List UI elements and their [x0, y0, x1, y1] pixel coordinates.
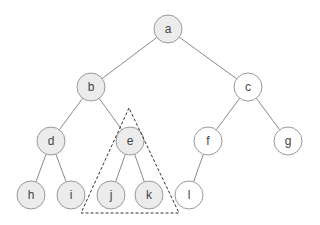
- node-label: a: [165, 22, 172, 36]
- edge-e-k: [135, 154, 145, 182]
- node-label: g: [285, 134, 292, 148]
- tree-node-i: i: [57, 181, 85, 209]
- node-label: d: [48, 134, 55, 148]
- tree-node-c: c: [234, 73, 262, 101]
- node-label: i: [70, 188, 73, 202]
- edge-d-h: [36, 154, 46, 182]
- node-label: h: [28, 188, 35, 202]
- edge-a-b: [102, 37, 157, 78]
- tree-node-b: b: [77, 73, 105, 101]
- node-label: e: [127, 134, 134, 148]
- edge-a-c: [179, 37, 236, 79]
- tree-node-f: f: [194, 127, 222, 155]
- edge-c-g: [256, 98, 279, 130]
- tree-node-k: k: [135, 181, 163, 209]
- node-label: l: [188, 188, 191, 202]
- tree-diagram: abcdefghijkl: [0, 0, 320, 225]
- subtree-triangle: [81, 108, 179, 213]
- edges-layer: [36, 37, 280, 182]
- node-label: k: [146, 188, 153, 202]
- edge-f-l: [194, 154, 204, 182]
- edge-b-d: [59, 98, 82, 130]
- node-label: b: [88, 80, 95, 94]
- node-label: c: [245, 80, 251, 94]
- edge-b-e: [99, 98, 122, 129]
- tree-node-l: l: [175, 181, 203, 209]
- tree-node-a: a: [154, 15, 182, 43]
- tree-node-d: d: [37, 127, 65, 155]
- edge-d-i: [56, 154, 66, 182]
- node-label: j: [109, 188, 113, 202]
- tree-node-j: j: [97, 181, 125, 209]
- tree-node-h: h: [17, 181, 45, 209]
- tree-node-e: e: [116, 127, 144, 155]
- edge-e-j: [116, 154, 126, 182]
- tree-node-g: g: [274, 127, 302, 155]
- edge-c-f: [216, 98, 239, 130]
- nodes-layer: abcdefghijkl: [17, 15, 302, 209]
